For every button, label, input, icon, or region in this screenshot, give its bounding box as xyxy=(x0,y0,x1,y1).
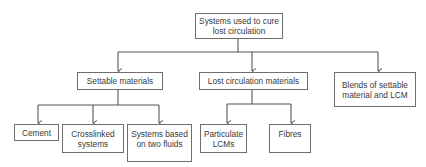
node-label: Cement xyxy=(22,128,51,138)
node-root: Systems used to cure lost circulation xyxy=(195,13,283,39)
node-label: Fibres xyxy=(278,129,301,139)
node-label: Lost circulation materials xyxy=(208,76,299,86)
node-label: Settable materials xyxy=(87,76,153,86)
node-lost-circulation-materials: Lost circulation materials xyxy=(199,72,308,90)
node-cement: Cement xyxy=(14,124,59,141)
node-fibres: Fibres xyxy=(269,124,311,153)
node-settable-materials: Settable materials xyxy=(77,72,163,90)
node-crosslinked-systems: Crosslinked systems xyxy=(62,124,124,153)
node-two-fluid-systems: Systems based on two fluids xyxy=(127,124,192,162)
node-label: Systems based on two fluids xyxy=(131,129,188,149)
node-root-label: Systems used to cure lost circulation xyxy=(199,16,279,36)
node-label: Blends of settable material and LCM xyxy=(338,80,412,100)
node-label: Particulate LCMs xyxy=(204,129,243,149)
node-label: Crosslinked systems xyxy=(66,129,120,149)
node-particulate-lcms: Particulate LCMs xyxy=(200,124,247,153)
node-blends: Blends of settable material and LCM xyxy=(334,72,416,107)
